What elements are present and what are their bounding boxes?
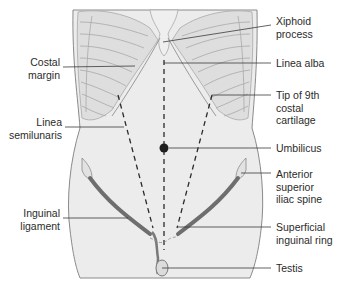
label-linea-alba: Linea alba bbox=[276, 57, 324, 70]
label-xiphoid-process: Xiphoid process bbox=[276, 15, 313, 40]
label-inguinal-ligament: Inguinal ligament bbox=[10, 207, 60, 232]
umbilicus-dot bbox=[160, 144, 169, 153]
label-superficial-inguinal-ring: Superficial inguinal ring bbox=[276, 221, 333, 246]
label-tip-9th-costal-cartilage: Tip of 9th costal cartilage bbox=[276, 89, 319, 127]
label-anterior-superior-iliac-spine: Anterior superior iliac spine bbox=[276, 168, 322, 206]
label-costal-margin: Costal margin bbox=[10, 56, 60, 81]
abdominal-wall-diagram: Costal margin Linea semilunaris Inguinal… bbox=[0, 0, 343, 288]
label-testis: Testis bbox=[276, 262, 303, 275]
label-umbilicus: Umbilicus bbox=[276, 142, 322, 155]
label-linea-semilunaris: Linea semilunaris bbox=[0, 116, 62, 141]
